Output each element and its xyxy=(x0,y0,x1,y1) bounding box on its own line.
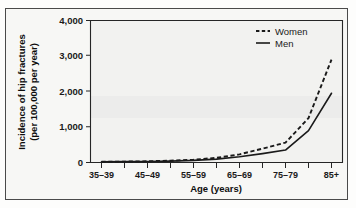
x-tick-label-35-39: 35–39 xyxy=(89,170,114,180)
y-tick-label-1000: 1,000 xyxy=(59,121,83,132)
plot-area-background xyxy=(90,20,343,163)
legend-label-men: Men xyxy=(275,38,293,49)
y-tick-marks xyxy=(86,21,90,163)
y-tick-label-3000: 3,000 xyxy=(59,50,83,61)
figure-container: 0 1,000 2,000 3,000 4,000 35–39 45–49 55… xyxy=(0,0,356,208)
x-tick-label-85plus: 85+ xyxy=(324,170,339,180)
x-axis-title: Age (years) xyxy=(190,183,242,194)
y-axis-title-line2: (per 100,000 per year) xyxy=(28,43,39,141)
y-tick-label-0: 0 xyxy=(78,157,83,168)
x-tick-label-55-59: 55–59 xyxy=(181,170,206,180)
y-tick-label-2000: 2,000 xyxy=(59,86,83,97)
x-tick-label-65-69: 65–69 xyxy=(227,170,252,180)
x-tick-marks xyxy=(102,163,332,168)
x-tick-label-45-49: 45–49 xyxy=(135,170,160,180)
y-tick-label-4000: 4,000 xyxy=(59,15,83,26)
hip-fracture-incidence-chart: 0 1,000 2,000 3,000 4,000 35–39 45–49 55… xyxy=(0,0,356,208)
x-tick-label-75-79: 75–79 xyxy=(273,170,298,180)
legend-label-women: Women xyxy=(275,26,308,37)
scan-artifact-band xyxy=(90,96,343,118)
y-axis-title-line1: Incidence of hip fractures xyxy=(16,34,27,150)
